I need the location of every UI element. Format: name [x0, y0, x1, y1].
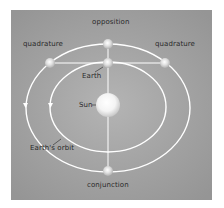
earth-orbit-direction-arrow-icon — [48, 103, 53, 108]
planet-quadrature-right-icon — [160, 58, 170, 68]
outer-orbit-direction-arrow-icon — [23, 103, 28, 108]
earth-icon — [103, 58, 113, 68]
label-opposition: opposition — [92, 18, 129, 26]
label-earth: Earth — [82, 72, 101, 80]
planet-opposition-icon — [103, 39, 113, 49]
planet-conjunction-icon — [103, 166, 113, 176]
label-sun: Sun — [79, 101, 93, 109]
label-earths-orbit: Earth's orbit — [30, 144, 74, 152]
orbit-diagram — [0, 0, 224, 208]
label-quadrature-right: quadrature — [155, 40, 195, 48]
sun-icon — [96, 93, 120, 117]
planet-quadrature-left-icon — [45, 58, 55, 68]
label-conjunction: conjunction — [87, 181, 129, 189]
label-quadrature-left: quadrature — [23, 40, 63, 48]
